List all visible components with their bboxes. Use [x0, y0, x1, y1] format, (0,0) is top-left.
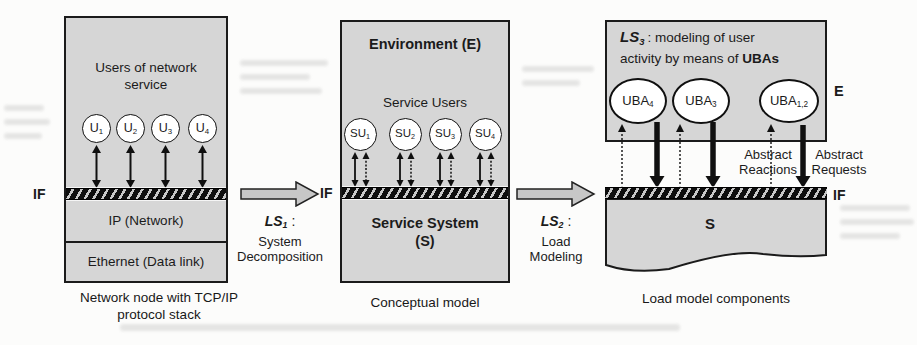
ls1-label: LS1 : [224, 212, 336, 234]
user-node-u4: U4 [188, 114, 217, 143]
service-user-su1: SU1 [344, 118, 377, 151]
ethernet-layer: Ethernet (Data link) [66, 243, 226, 281]
ls3-header: LS3: modeling of user activity by means … [620, 28, 779, 68]
abstract-reaction-arrow [618, 124, 626, 187]
ls1-text: LS1 : System Decomposition [224, 212, 336, 264]
service-user-su2: SU2 [389, 118, 422, 151]
panel2-arrows [342, 152, 508, 187]
dotted-bidirectional-arrow [408, 152, 415, 187]
panel1-caption: Network node with TCP/IP protocol stack [54, 290, 264, 323]
scan-artifact [240, 60, 332, 102]
if-label-3: IF [833, 188, 845, 202]
scan-artifact [522, 66, 602, 94]
service-user-label: SU2 [395, 127, 415, 141]
dotted-bidirectional-arrow [448, 152, 455, 187]
if-label-2: IF [320, 186, 332, 200]
abstract-request-arrow [706, 122, 721, 188]
user-label: U1 [90, 121, 103, 136]
service-user-label: SU4 [475, 127, 495, 141]
ls2-text: LS2 : Load Modeling [518, 212, 594, 264]
user-label: U2 [124, 121, 137, 136]
ls1-block-arrow [240, 181, 320, 207]
service-user-label: SU3 [435, 127, 455, 141]
if-hatched-bar [66, 188, 226, 200]
bidirectional-arrow [126, 145, 135, 188]
dotted-bidirectional-arrow [488, 152, 495, 187]
scan-artifact [120, 324, 700, 339]
panel1-title: Users of network service [66, 60, 226, 93]
abstract-requests-label: Abstract Requests [809, 147, 869, 177]
scan-artifact [840, 205, 915, 247]
load-modeling-figure: Users of network service U1 U2 U3 U4 [0, 0, 917, 345]
ip-layer-label: IP (Network) [66, 213, 226, 228]
environment-e-label: E [834, 83, 844, 99]
ls2-block-arrow [516, 181, 596, 207]
service-system-block [605, 199, 827, 279]
solid-bidirectional-arrow [397, 152, 404, 187]
user-node-u1: U1 [82, 114, 111, 143]
user-node-u2: U2 [116, 114, 145, 143]
environment-header: Environment (E) [342, 36, 508, 52]
panel3-arrows [605, 70, 833, 200]
panel1-arrows [66, 145, 226, 188]
bidirectional-arrow [198, 145, 207, 188]
if-hatched-bar [605, 187, 827, 199]
if-label-1: IF [33, 187, 45, 201]
abstract-reactions-label: Abstract Reactions [736, 147, 800, 177]
panel-conceptual-model: Environment (E) Service Users SU1 SU2 SU… [340, 20, 510, 283]
panel3-caption: Load model components [601, 291, 831, 308]
user-label: U4 [196, 121, 209, 136]
abstract-request-arrow [650, 122, 665, 188]
scan-artifact [4, 105, 54, 147]
ls2-label: LS2 : [518, 212, 594, 234]
ip-layer: IP (Network) [66, 200, 226, 243]
dotted-bidirectional-arrow [363, 152, 370, 187]
ethernet-layer-label: Ethernet (Data link) [66, 254, 226, 269]
bidirectional-arrow [92, 145, 101, 188]
service-user-label: SU1 [350, 127, 370, 141]
bidirectional-arrow [161, 145, 170, 188]
abstract-reaction-arrow [676, 124, 684, 187]
service-system-label: Service System (S) [342, 215, 508, 250]
solid-bidirectional-arrow [352, 152, 359, 187]
solid-bidirectional-arrow [437, 152, 444, 187]
user-node-u3: U3 [151, 114, 180, 143]
service-user-su4: SU4 [469, 118, 502, 151]
service-user-su3: SU3 [429, 118, 462, 151]
panel2-caption: Conceptual model [340, 295, 510, 312]
panel-network-node: Users of network service U1 U2 U3 U4 [64, 16, 228, 283]
user-label: U3 [159, 121, 172, 136]
service-users-label: Service Users [342, 95, 508, 112]
if-hatched-bar [342, 187, 508, 199]
solid-bidirectional-arrow [477, 152, 484, 187]
s-label: S [688, 215, 732, 232]
